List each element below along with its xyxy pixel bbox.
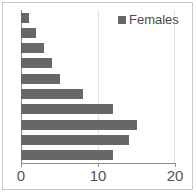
x-axis-tick-label: 0 (17, 168, 25, 183)
x-axis-tick-label: 10 (90, 168, 107, 183)
bar-slot (21, 102, 175, 117)
bar[interactable] (21, 104, 113, 114)
bar-slot (21, 86, 175, 101)
bar-slot (21, 132, 175, 147)
plot-area (21, 10, 175, 163)
bar[interactable] (21, 58, 52, 68)
bar[interactable] (21, 43, 44, 53)
legend-swatch-females (118, 16, 126, 24)
bar[interactable] (21, 13, 29, 23)
bar-slot (21, 56, 175, 71)
bar-slot (21, 71, 175, 86)
bar[interactable] (21, 89, 83, 99)
bar[interactable] (21, 74, 60, 84)
bar[interactable] (21, 150, 113, 160)
bar-slot (21, 148, 175, 163)
bar-slot (21, 25, 175, 40)
bar[interactable] (21, 28, 36, 38)
bar-chart-figure: 01020 Females (0, 0, 196, 193)
bar-series-females (21, 10, 175, 163)
legend-label-females: Females (129, 13, 179, 26)
bar[interactable] (21, 120, 137, 130)
bar[interactable] (21, 135, 129, 145)
x-axis-tick-label: 20 (167, 168, 184, 183)
bar-slot (21, 117, 175, 132)
legend: Females (118, 13, 179, 26)
bar-slot (21, 41, 175, 56)
